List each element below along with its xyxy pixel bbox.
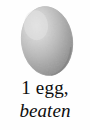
ingredient-card: 1 egg, beaten (0, 0, 90, 130)
ingredient-caption: 1 egg, beaten (0, 76, 90, 123)
egg-icon (0, 0, 90, 78)
ingredient-amount-text: 1 egg, (0, 76, 90, 99)
ingredient-preparation-text: beaten (0, 99, 90, 123)
